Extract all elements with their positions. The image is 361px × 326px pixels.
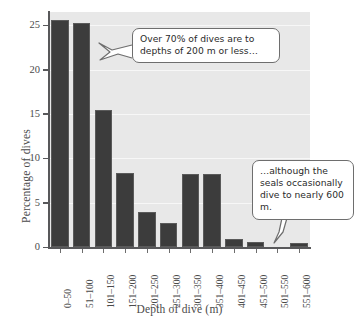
x-axis-tick-label: 501–550: [281, 252, 291, 308]
bar: [95, 110, 112, 247]
bar: [160, 223, 177, 247]
bar: [116, 173, 133, 247]
bar: [182, 174, 199, 247]
x-axis-title: Depth of dive (m): [49, 303, 310, 315]
x-axis-tick-label: 51–100: [86, 252, 96, 308]
bar: [225, 239, 242, 247]
x-axis-tick-label: 301–350: [194, 252, 204, 308]
x-axis-tick-label: 101–150: [107, 252, 117, 308]
x-axis-tick-label: 201–250: [151, 252, 161, 308]
x-axis-tick-label: 0–50: [64, 252, 74, 308]
x-axis-tick-label: 151–200: [129, 252, 139, 308]
bar-chart-figure: 0510152025 0–5051–100101–150151–200201–2…: [0, 0, 361, 326]
bar: [51, 20, 68, 247]
x-axis-tick-label: 401–450: [238, 252, 248, 308]
bar: [290, 243, 307, 247]
callout-annotation-deep-dives: …although the seals occasionally dive to…: [252, 160, 354, 220]
bar: [138, 212, 155, 247]
y-axis-tick-label: 25: [0, 20, 40, 31]
bar: [73, 23, 90, 247]
x-axis-tick-labels: 0–5051–100101–150151–200201–250251–30030…: [49, 252, 310, 300]
x-axis-tick-label: 451–500: [260, 252, 270, 308]
y-axis-title: Percentage of dives: [20, 106, 32, 246]
x-axis-tick-label: 551–600: [303, 252, 313, 308]
x-axis-tick-label: 251–300: [173, 252, 183, 308]
bar: [247, 242, 264, 247]
x-axis-tick-label: 351–400: [216, 252, 226, 308]
x-axis-line: [48, 247, 311, 249]
y-axis-title-wrap: Percentage of dives: [8, 60, 28, 220]
callout-annotation-depths: Over 70% of dives are to depths of 200 m…: [132, 28, 280, 63]
bar: [203, 174, 220, 247]
